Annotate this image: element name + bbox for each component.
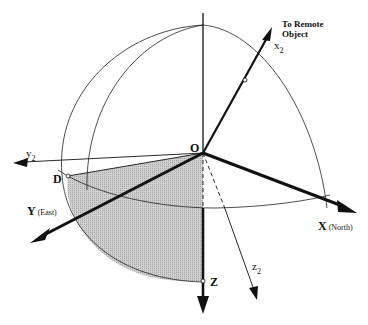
z-point-marker <box>201 279 205 283</box>
remote-object-label-line1: To Remote <box>282 19 323 29</box>
x2-arrowhead-icon <box>262 27 272 41</box>
sphere-outline-right <box>203 25 327 208</box>
z2-label: z2 <box>252 260 261 276</box>
y2-label-sub: 2 <box>32 154 36 163</box>
remote-object-label-line2: Object <box>282 29 308 39</box>
y-axis-label: Y(East) <box>27 204 57 218</box>
y2-arrowhead-icon <box>13 158 28 167</box>
z-axis-label: Z <box>210 275 218 289</box>
x-axis-label: X(North) <box>318 219 353 233</box>
x2-label: x2 <box>274 39 284 55</box>
x-arrowhead-icon <box>337 200 357 213</box>
origin-label: O <box>190 141 199 155</box>
x-axis <box>203 153 345 207</box>
x2-point-marker <box>243 78 247 82</box>
x-label-main: X <box>318 219 327 233</box>
z2-arrowhead-icon <box>249 286 258 300</box>
x-label-note: (North) <box>329 223 353 232</box>
x2-label-sub: 2 <box>280 46 284 55</box>
d-point-marker <box>66 174 70 178</box>
z2-label-sub: 2 <box>257 267 261 276</box>
z-arrowhead-icon <box>197 296 209 314</box>
y-label-main: Y <box>27 204 36 218</box>
x2-axis <box>203 36 268 153</box>
coordinate-frame-diagram: O To Remote Object x2 y2 z2 D Y(East) X(… <box>0 0 368 325</box>
z2-axis <box>224 206 254 290</box>
d-label: D <box>53 172 62 186</box>
y-label-note: (East) <box>38 208 57 217</box>
y-arrowhead-icon <box>30 228 50 243</box>
